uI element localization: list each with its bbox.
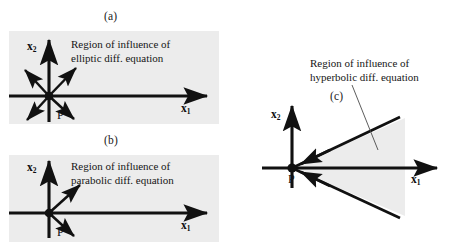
panel-b-arrow-down-right — [49, 213, 74, 236]
panel-a-arrow-up-right — [49, 68, 76, 96]
panel-a-arrow-down-right — [49, 96, 74, 119]
panel-a-point-p-marker — [45, 92, 54, 101]
panel-a-axes — [9, 40, 207, 122]
panel-b-point-p-marker — [45, 209, 54, 218]
panel-b-arrow-up-right — [49, 185, 80, 213]
figure-canvas: (a) (b) (c) Region of influence of ellip… — [0, 0, 453, 247]
panel-b-influence-arrows — [49, 185, 80, 236]
panel-b-axes — [9, 161, 207, 238]
panel-a-arrow-down-left — [27, 96, 49, 120]
panel-a-arrow-up-left — [25, 70, 49, 96]
diagram-vector-overlay — [0, 0, 453, 247]
panel-c-point-p-marker — [287, 163, 296, 172]
